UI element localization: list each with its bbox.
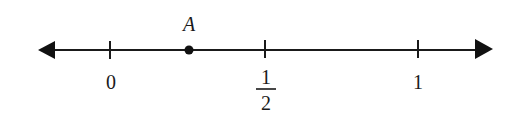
tick-label-0: 0 [106, 71, 116, 93]
right-arrow-icon [475, 39, 493, 59]
tick-label-1: 1 [413, 71, 423, 93]
number-line-figure: 0 1 2 1 A [0, 0, 512, 121]
left-arrow-icon [38, 41, 55, 59]
point-a [185, 46, 194, 55]
tick-label-half-denominator: 2 [261, 92, 271, 114]
point-a-label: A [181, 13, 196, 35]
tick-label-half-numerator: 1 [261, 66, 271, 88]
